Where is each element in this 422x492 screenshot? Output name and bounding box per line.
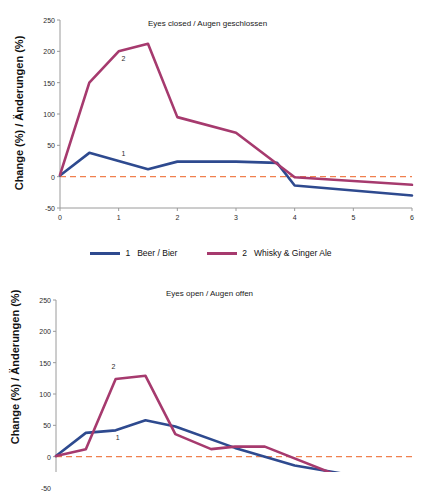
chart-svg: [0, 272, 422, 472]
chart-panel-eyes-closed: Change (%) / Änderungen (%) Eyes closed …: [0, 0, 422, 232]
legend-key-whisky: 2: [242, 248, 247, 258]
series-annotation: 1: [116, 434, 120, 441]
legend-swatch-beer: [90, 252, 120, 255]
plot-area-eyes-closed: -50050100150200250012345621: [0, 0, 422, 232]
series-line-1: [60, 153, 412, 196]
legend: 1 Beer / Bier 2 Whisky & Ginger Ale: [0, 244, 422, 262]
x-tick-label: 6: [410, 214, 414, 221]
x-tick-label: 1: [117, 214, 121, 221]
legend-label-beer: Beer / Bier: [137, 248, 177, 258]
series-annotation: 2: [111, 363, 115, 370]
y-tick-label: -50: [27, 485, 51, 492]
y-tick-label: 250: [27, 297, 51, 304]
y-tick-label: 0: [31, 173, 55, 180]
legend-key-beer: 1: [125, 248, 130, 258]
series-annotation: 2: [122, 55, 126, 62]
y-tick-label: 50: [27, 422, 51, 429]
chart-svg: [0, 0, 422, 232]
series-annotation: 1: [122, 150, 126, 157]
series-line-2: [60, 44, 412, 185]
y-tick-label: 250: [31, 17, 55, 24]
series-line-2: [56, 376, 414, 472]
legend-item-whisky[interactable]: 2 Whisky & Ginger Ale: [207, 248, 331, 258]
x-tick-label: 5: [351, 214, 355, 221]
x-tick-label: 4: [293, 214, 297, 221]
y-tick-label: 200: [27, 328, 51, 335]
x-tick-label: 0: [58, 214, 62, 221]
y-tick-label: 50: [31, 142, 55, 149]
y-tick-label: 150: [31, 79, 55, 86]
plot-area-eyes-open: -5005010015020025021: [0, 272, 422, 472]
y-tick-label: 150: [27, 359, 51, 366]
x-tick-label: 2: [175, 214, 179, 221]
y-tick-label: 200: [31, 48, 55, 55]
y-tick-label: -50: [31, 205, 55, 212]
x-tick-label: 3: [234, 214, 238, 221]
legend-swatch-whisky: [207, 252, 237, 255]
y-tick-label: 100: [27, 391, 51, 398]
legend-label-whisky: Whisky & Ginger Ale: [254, 248, 331, 258]
y-tick-label: 0: [27, 453, 51, 460]
chart-panel-eyes-open: Change (%) / Änderungen (%) Eyes open / …: [0, 272, 422, 461]
legend-item-beer[interactable]: 1 Beer / Bier: [90, 248, 177, 258]
y-tick-label: 100: [31, 111, 55, 118]
